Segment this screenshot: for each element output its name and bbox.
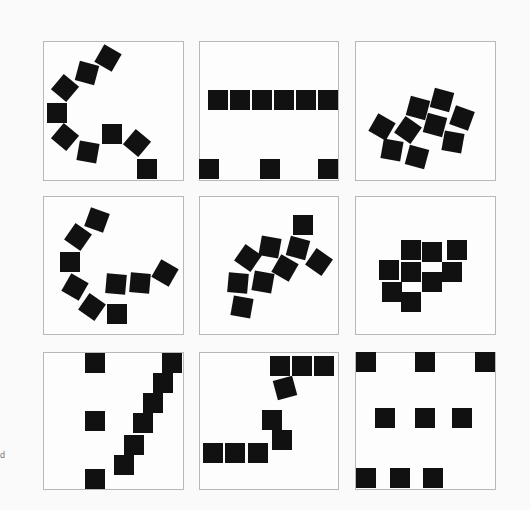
black-square <box>260 159 280 179</box>
black-square <box>375 408 395 428</box>
black-square <box>415 408 435 428</box>
black-square <box>252 90 272 110</box>
black-square <box>199 159 219 179</box>
black-square <box>85 353 105 373</box>
black-square <box>203 443 223 463</box>
panel-r2c3 <box>355 196 496 335</box>
black-square <box>318 159 338 179</box>
black-square <box>60 252 80 272</box>
black-square <box>102 124 122 144</box>
black-square <box>401 262 421 282</box>
black-square <box>356 352 376 372</box>
black-square <box>47 103 67 123</box>
black-square <box>447 240 467 260</box>
black-square <box>262 410 282 430</box>
black-square <box>272 430 292 450</box>
black-square <box>401 292 421 312</box>
black-square <box>143 393 163 413</box>
black-square <box>85 411 105 431</box>
black-square <box>227 272 249 294</box>
black-square <box>137 159 157 179</box>
black-square <box>318 90 338 110</box>
black-square <box>114 455 134 475</box>
black-square <box>129 272 151 294</box>
black-square <box>251 270 274 293</box>
black-square <box>380 138 403 161</box>
black-square <box>415 352 435 372</box>
black-square <box>379 260 399 280</box>
black-square <box>390 468 410 488</box>
black-square <box>105 273 127 295</box>
black-square <box>292 356 312 376</box>
black-square <box>153 373 173 393</box>
black-square <box>274 90 294 110</box>
cropped-caption-fragment: d <box>0 450 5 460</box>
black-square <box>230 295 253 318</box>
black-square <box>356 468 376 488</box>
black-square <box>85 469 105 489</box>
black-square <box>133 413 153 433</box>
black-square <box>401 240 421 260</box>
black-square <box>248 443 268 463</box>
black-square <box>76 140 99 163</box>
black-square <box>422 242 442 262</box>
black-square <box>162 353 182 373</box>
black-square <box>107 304 127 324</box>
black-square <box>422 272 442 292</box>
black-square <box>475 352 495 372</box>
black-square <box>382 282 402 302</box>
black-square <box>208 90 228 110</box>
black-square <box>293 215 313 235</box>
black-square <box>442 262 462 282</box>
black-square <box>314 356 334 376</box>
black-square <box>296 90 316 110</box>
black-square <box>452 408 472 428</box>
black-square <box>124 435 144 455</box>
black-square <box>423 468 443 488</box>
black-square <box>441 130 464 153</box>
black-square <box>230 90 250 110</box>
black-square <box>225 443 245 463</box>
black-square <box>270 356 290 376</box>
